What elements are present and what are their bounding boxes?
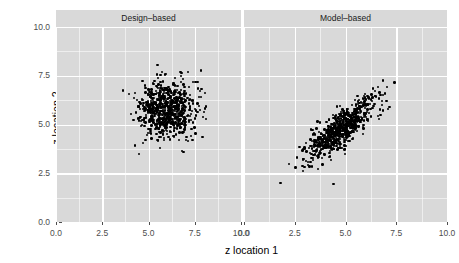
scatter-point <box>144 84 146 86</box>
scatter-point <box>132 119 134 121</box>
y-axis-tick-label: 5.0 <box>10 120 50 129</box>
scatter-point <box>156 64 158 66</box>
scatter-point <box>301 165 303 167</box>
scatter-point <box>204 92 206 94</box>
scatter-point <box>173 135 175 137</box>
scatter-point <box>378 118 380 120</box>
scatter-point <box>172 94 174 96</box>
scatter-point <box>196 111 198 113</box>
scatter-point <box>172 83 174 85</box>
scatter-point <box>155 107 157 109</box>
scatter-point <box>323 153 325 155</box>
gridline-horizontal-major <box>244 76 447 77</box>
scatter-point <box>128 93 130 95</box>
scatter-point <box>175 133 177 135</box>
x-axis-tick-label: 7.5 <box>381 228 411 238</box>
panel-strip-label-design-based: Design–based <box>56 10 241 27</box>
scatter-point <box>184 106 186 108</box>
scatter-point <box>144 121 146 123</box>
scatter-point <box>362 127 364 129</box>
scatter-point <box>191 139 193 141</box>
x-axis-tick-labels-left: 0.02.55.07.510.0 <box>56 222 241 240</box>
x-axis-tick-mark <box>241 222 242 225</box>
scatter-point <box>150 124 152 126</box>
scatter-point <box>178 131 180 133</box>
scatter-point <box>393 81 395 83</box>
scatter-point <box>161 71 163 73</box>
scatter-point <box>159 74 161 76</box>
scatter-point <box>302 170 304 172</box>
scatter-point <box>189 115 191 117</box>
x-axis-tick-mark <box>56 222 57 225</box>
scatter-point <box>186 97 188 99</box>
scatter-point <box>340 117 342 119</box>
scatter-point <box>182 83 184 85</box>
scatter-point <box>171 123 173 125</box>
scatter-point <box>341 134 343 136</box>
scatter-point <box>182 93 184 95</box>
scatter-point <box>205 118 207 120</box>
y-axis-tick-label: 0.0 <box>10 218 50 227</box>
x-axis-tick-label: 2.5 <box>280 228 310 238</box>
scatter-point <box>187 71 189 73</box>
scatter-point <box>359 110 361 112</box>
scatter-point <box>168 88 170 90</box>
scatter-point <box>149 128 151 130</box>
scatter-point <box>148 106 150 108</box>
scatter-point <box>351 104 353 106</box>
scatter-point <box>199 90 201 92</box>
scatter-point <box>164 117 166 119</box>
scatter-point <box>183 101 185 103</box>
panel-strip-design-based: Design–based <box>56 10 241 27</box>
scatter-point <box>311 147 313 149</box>
scatter-point <box>374 95 376 97</box>
scatter-point-outlier <box>279 182 281 184</box>
scatter-plot-figure: z location 2 0.02.55.07.510.0 Design–bas… <box>0 0 459 263</box>
scatter-point <box>199 109 201 111</box>
x-axis-tick-label: 0.0 <box>41 228 71 238</box>
scatter-point <box>154 93 156 95</box>
scatter-point <box>167 117 169 119</box>
panel-model-based: Model–based <box>244 10 447 222</box>
scatter-point <box>156 73 158 75</box>
scatter-point <box>135 111 137 113</box>
gridline-horizontal-major <box>244 173 447 174</box>
scatter-point <box>174 113 176 115</box>
scatter-point <box>366 118 368 120</box>
scatter-point <box>339 105 341 107</box>
scatter-point <box>349 114 351 116</box>
scatter-point <box>138 153 140 155</box>
scatter-point <box>373 103 375 105</box>
x-axis-tick-mark <box>244 222 245 225</box>
scatter-point <box>166 133 168 135</box>
scatter-point <box>122 89 124 91</box>
scatter-point <box>153 80 155 82</box>
scatter-point <box>362 133 364 135</box>
scatter-point <box>372 87 374 89</box>
scatter-point <box>328 152 330 154</box>
scatter-point <box>363 119 365 121</box>
scatter-point <box>318 131 320 133</box>
x-axis-tick-mark <box>396 222 397 225</box>
scatter-point <box>182 78 184 80</box>
scatter-point <box>183 128 185 130</box>
x-axis-tick-label: 5.0 <box>134 228 164 238</box>
scatter-point <box>317 138 319 140</box>
scatter-point <box>190 135 192 137</box>
scatter-point <box>183 86 185 88</box>
scatter-point <box>155 90 157 92</box>
scatter-point <box>370 115 372 117</box>
scatter-point <box>159 112 161 114</box>
scatter-point <box>156 139 158 141</box>
scatter-point <box>316 149 318 151</box>
scatter-point <box>195 114 197 116</box>
scatter-point <box>176 127 178 129</box>
scatter-point <box>362 124 364 126</box>
scatter-point <box>344 153 346 155</box>
scatter-point <box>382 94 384 96</box>
scatter-point <box>378 97 380 99</box>
scatter-point <box>174 121 176 123</box>
scatter-point <box>312 133 314 135</box>
x-axis-tick-mark <box>102 222 103 225</box>
scatter-point <box>185 136 187 138</box>
